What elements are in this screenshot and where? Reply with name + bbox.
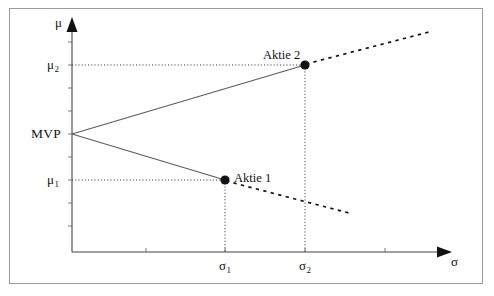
data-point-markers bbox=[220, 60, 309, 184]
frontier-dashed-extensions bbox=[226, 32, 429, 213]
frontier-solid-lines bbox=[72, 65, 305, 180]
y-axis-arrowhead bbox=[67, 17, 78, 32]
y-tick-label-mu2-base: μ bbox=[47, 57, 54, 72]
marker-aktie-1 bbox=[220, 175, 229, 184]
risk-return-diagram bbox=[0, 0, 494, 296]
mvp-label: MVP bbox=[31, 127, 61, 141]
y-tick-label-mu2: μ2 bbox=[47, 58, 59, 74]
data-point-label-aktie-1: Aktie 1 bbox=[234, 172, 271, 185]
y-axis-label: μ bbox=[55, 16, 62, 29]
x-tick-label-sigma2-subscript: 2 bbox=[306, 265, 311, 275]
axis-group bbox=[67, 17, 453, 258]
y-tick-label-mu1-base: μ bbox=[47, 172, 54, 187]
diagram-page: μ σ μ2 μ1 σ1 σ2 MVP Aktie 2 Aktie 1 bbox=[0, 0, 494, 296]
y-tick-label-mu1-subscript: 1 bbox=[54, 179, 59, 189]
y-axis-ticks bbox=[68, 42, 72, 226]
y-tick-label-mu2-subscript: 2 bbox=[54, 64, 59, 74]
lower-frontier-dashed bbox=[226, 181, 349, 213]
x-tick-label-sigma1-subscript: 1 bbox=[226, 265, 231, 275]
guide-lines bbox=[72, 65, 305, 252]
x-axis-label: σ bbox=[451, 255, 458, 268]
lower-frontier-solid bbox=[72, 134, 225, 180]
x-tick-label-sigma2: σ2 bbox=[299, 259, 311, 275]
upper-frontier-solid bbox=[72, 65, 305, 134]
x-tick-label-sigma2-base: σ bbox=[299, 258, 306, 273]
x-axis-arrowhead bbox=[437, 247, 452, 258]
data-point-label-aktie-2: Aktie 2 bbox=[263, 49, 300, 62]
upper-frontier-dashed bbox=[306, 32, 429, 64]
x-tick-label-sigma1-base: σ bbox=[219, 258, 226, 273]
marker-aktie-2 bbox=[300, 60, 309, 69]
x-axis-ticks bbox=[146, 248, 385, 252]
x-tick-label-sigma1: σ1 bbox=[219, 259, 231, 275]
y-tick-label-mu1: μ1 bbox=[47, 173, 59, 189]
